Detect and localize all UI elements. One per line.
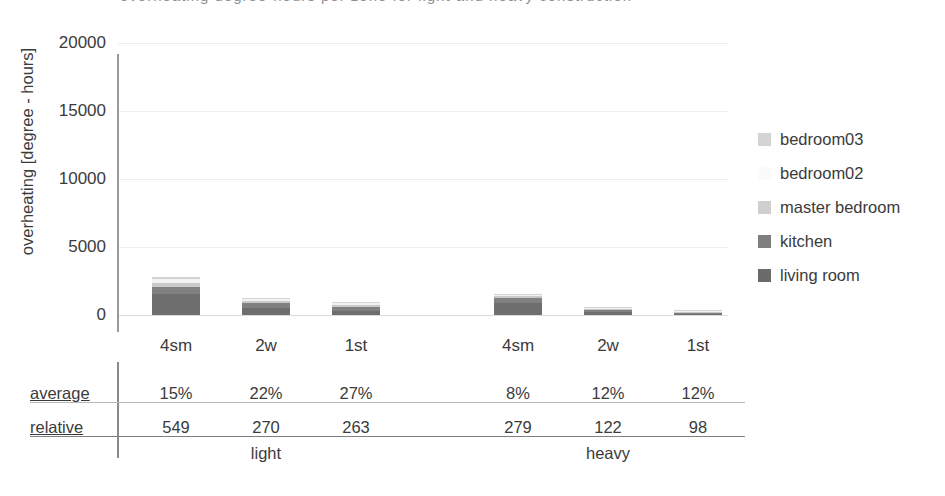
y-tick-5000: 5000 bbox=[28, 237, 106, 257]
legend-swatch-icon bbox=[758, 133, 771, 146]
table-cell-average-0: 15% bbox=[159, 384, 192, 403]
table-cell-average-3: 8% bbox=[506, 384, 530, 403]
table-vertical-divider bbox=[117, 362, 119, 458]
table-cell-relative-1: 270 bbox=[252, 418, 280, 437]
x-label-0: 4sm bbox=[160, 336, 192, 356]
y-tick-20000: 20000 bbox=[28, 33, 106, 53]
legend-label: bedroom03 bbox=[780, 130, 863, 149]
table-cell-relative-2: 263 bbox=[342, 418, 370, 437]
chart-plot-area: overheating [degree - hours] 05000100001… bbox=[0, 14, 750, 359]
bar-2 bbox=[332, 302, 380, 315]
table-cell-relative-4: 122 bbox=[594, 418, 622, 437]
table-divider-2 bbox=[30, 436, 745, 437]
group-label-heavy: heavy bbox=[586, 444, 630, 463]
x-label-1: 2w bbox=[255, 336, 277, 356]
legend-label: living room bbox=[780, 266, 860, 285]
table-divider-1 bbox=[30, 402, 745, 403]
bar-4 bbox=[584, 307, 632, 315]
legend-label: kitchen bbox=[780, 232, 832, 251]
gridline-5000 bbox=[118, 247, 728, 248]
table-cell-relative-0: 549 bbox=[162, 418, 190, 437]
bar-segment-living-room bbox=[494, 303, 542, 315]
x-label-3: 4sm bbox=[502, 336, 534, 356]
bar-series-container bbox=[118, 14, 728, 359]
y-axis-line bbox=[117, 54, 119, 332]
legend-swatch-icon bbox=[758, 235, 771, 248]
bar-0 bbox=[152, 277, 200, 315]
y-tick-0: 0 bbox=[28, 305, 106, 325]
legend-item-master-bedroom[interactable]: master bedroom bbox=[758, 190, 943, 224]
legend-item-bedroom02[interactable]: bedroom02 bbox=[758, 156, 943, 190]
legend-label: bedroom02 bbox=[780, 164, 863, 183]
table-cell-average-4: 12% bbox=[591, 384, 624, 403]
y-tick-10000: 10000 bbox=[28, 169, 106, 189]
table-cell-average-5: 12% bbox=[681, 384, 714, 403]
legend-swatch-icon bbox=[758, 269, 771, 282]
chart-data-table: average relative 15%22%27%8%12%12%549270… bbox=[0, 362, 750, 458]
table-row-label-average: average bbox=[30, 384, 90, 403]
table-cell-relative-5: 98 bbox=[689, 418, 707, 437]
table-row-label-relative: relative bbox=[30, 418, 83, 437]
table-cell-relative-3: 279 bbox=[504, 418, 532, 437]
x-label-2: 1st bbox=[345, 336, 368, 356]
legend-item-bedroom03[interactable]: bedroom03 bbox=[758, 122, 943, 156]
legend-label: master bedroom bbox=[780, 198, 900, 217]
top-cutoff-text-strip: overheating degree-hours per zone for li… bbox=[0, 0, 945, 12]
cutoff-caption: overheating degree-hours per zone for li… bbox=[120, 0, 632, 4]
legend-item-kitchen[interactable]: kitchen bbox=[758, 224, 943, 258]
y-tick-15000: 15000 bbox=[28, 101, 106, 121]
gridline-20000 bbox=[118, 43, 728, 44]
x-label-4: 2w bbox=[597, 336, 619, 356]
gridline-10000 bbox=[118, 179, 728, 180]
y-axis-tick-labels: 05000100001500020000 bbox=[14, 14, 106, 359]
gridline-15000 bbox=[118, 111, 728, 112]
chart-legend: bedroom03bedroom02master bedroomkitchenl… bbox=[758, 122, 943, 292]
bar-segment-living-room bbox=[152, 294, 200, 315]
legend-swatch-icon bbox=[758, 167, 771, 180]
x-label-5: 1st bbox=[687, 336, 710, 356]
group-label-light: light bbox=[251, 444, 281, 463]
table-cell-average-2: 27% bbox=[339, 384, 372, 403]
gridline-0 bbox=[118, 315, 728, 316]
bar-1 bbox=[242, 298, 290, 316]
bar-segment-living-room bbox=[242, 308, 290, 315]
chart-gridlines-and-bars bbox=[118, 14, 728, 359]
table-cell-average-1: 22% bbox=[249, 384, 282, 403]
legend-swatch-icon bbox=[758, 201, 771, 214]
bar-3 bbox=[494, 294, 542, 315]
legend-item-living-room[interactable]: living room bbox=[758, 258, 943, 292]
